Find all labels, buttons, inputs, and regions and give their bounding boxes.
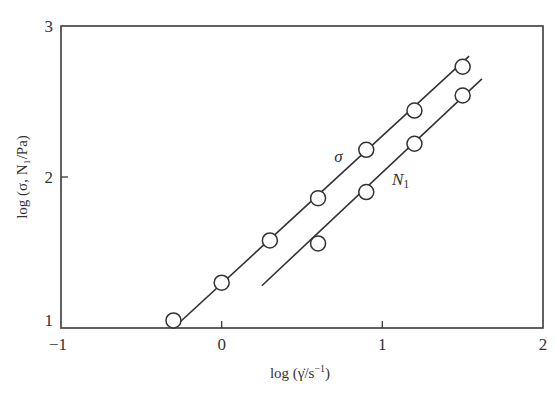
data-point [262,233,277,248]
data-point [455,88,470,103]
data-point [311,191,326,206]
data-point [311,236,326,251]
data-point [359,185,374,200]
series-label-n1: N1 [391,170,409,191]
chart: −1012 123 σ N1 log (γ̇/s−1) log (σ, N₁/P… [0,0,555,396]
x-tick-label: 0 [217,335,226,354]
data-point [214,275,229,290]
x-axis-title-prefix: log [270,365,290,381]
x-axis-title-paren-open: ( [289,365,298,382]
x-tick-label: 1 [378,335,387,354]
axis-ticks [61,177,382,328]
x-axis-title-var: γ̇/s [297,365,315,381]
data-point [407,136,422,151]
data-point [455,59,470,74]
series-label-sigma: σ [334,147,343,166]
y-tick-label: 2 [45,168,54,187]
y-axis-title: log (σ, N₁/Pa) [14,135,31,219]
data-point [407,103,422,118]
data-points [166,59,470,328]
data-point [359,142,374,157]
y-tick-label: 1 [45,311,54,330]
x-axis-title-sup: −1 [314,363,325,374]
x-tick-labels: −1012 [49,335,547,354]
x-axis-title: log (γ̇/s−1) [270,363,330,382]
n1-label-sub: 1 [403,177,409,191]
fit-line [262,79,482,286]
y-tick-labels: 123 [45,17,54,330]
y-tick-label: 3 [45,17,54,36]
x-tick-label: −1 [49,335,67,354]
x-tick-label: 2 [539,335,548,354]
data-point [166,313,181,328]
x-axis-title-paren-close: ) [325,365,330,382]
plot-frame [61,26,543,328]
